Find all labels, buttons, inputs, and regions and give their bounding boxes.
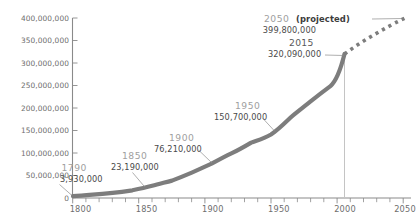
y-tick-label-250m: 250,000,000 [21,81,69,90]
annotation-1950-year: 1950 [235,100,260,111]
annotation-1900-year: 1900 [169,132,194,143]
series-projected-line [345,18,405,54]
x-major-tick-group [73,198,404,203]
y-tick-label-150m: 150,000,000 [21,126,69,135]
x-tick-label-2050: 2050 [394,204,416,214]
y-tick-label-200m: 200,000,000 [21,104,69,113]
annotation-1790-value: 3,930,000 [60,174,103,184]
x-tick-label-1900: 1900 [202,204,224,214]
population-growth-chart: 400,000,000 350,000,000 300,000,000 250,… [0,0,418,219]
series-historical-line [73,54,345,196]
y-tick-label-0: 0 [64,194,69,203]
annotation-1850: 1850 23,190,000 [111,150,159,188]
annotation-2015-value: 320,090,000 [268,49,321,59]
x-tick-label-1850: 1850 [136,204,158,214]
annotation-1790-year: 1790 [62,162,87,173]
annotation-2050: 2050 (projected) 399,800,000 [263,13,402,35]
annotation-1950-value: 150,700,000 [214,112,267,122]
annotation-2050-leader [372,19,402,20]
x-axis: 1800 1850 1900 1950 2000 2050 [70,198,416,214]
x-minor-tick-group [86,198,390,202]
x-tick-label-1950: 1950 [268,204,290,214]
annotation-1950: 1950 150,700,000 [214,100,275,132]
annotation-1900-value: 76,210,000 [154,144,202,154]
y-tick-label-350m: 350,000,000 [21,36,69,45]
annotation-2015: 2015 320,090,000 [268,37,344,60]
annotation-2050-value: 399,800,000 [263,25,316,35]
x-tick-label-2000: 2000 [334,204,356,214]
y-tick-label-100m: 100,000,000 [21,149,69,158]
annotation-1950-leader [263,118,276,132]
annotation-2050-year: 2050 [264,13,289,24]
y-tick-group [73,18,78,176]
y-tick-label-300m: 300,000,000 [21,59,69,68]
annotation-1900-leader [199,150,213,163]
chart-svg: 400,000,000 350,000,000 300,000,000 250,… [0,0,418,219]
annotation-1900: 1900 76,210,000 [154,132,212,164]
annotation-1850-value: 23,190,000 [111,162,159,172]
annotation-2050-projected-note: (projected) [296,14,350,24]
y-tick-label-400m: 400,000,000 [21,14,69,23]
annotation-1790: 1790 3,930,000 [60,162,103,196]
annotation-1850-leader [133,173,146,188]
annotation-2015-leader [325,55,344,56]
annotation-1850-year: 1850 [122,150,147,161]
annotation-2015-year: 2015 [289,37,314,48]
x-tick-label-1800: 1800 [70,204,92,214]
